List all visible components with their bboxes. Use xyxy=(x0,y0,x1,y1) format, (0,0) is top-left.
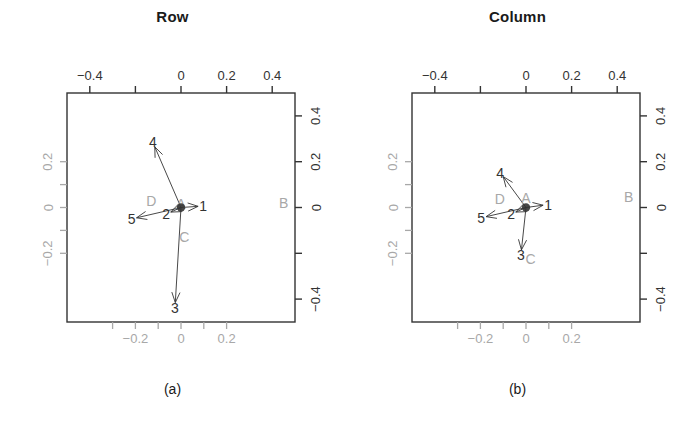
axis-label-top: 0.4 xyxy=(263,68,281,83)
axis-label-right: 0 xyxy=(309,204,324,211)
column-point-label: C xyxy=(179,229,189,245)
axis-label-top: 0 xyxy=(522,68,529,83)
axis-label-top: −0.4 xyxy=(422,68,448,83)
column-point-label: B xyxy=(624,189,633,205)
row-point-label: 2 xyxy=(507,206,515,222)
axis-label-bottom: 0.2 xyxy=(218,331,236,346)
axis-label-bottom: −0.2 xyxy=(468,331,494,346)
biplot-figure: Row −0.400.20.4−0.200.20.40.20−0.40.20−0… xyxy=(0,0,690,422)
panel-row: Row −0.400.20.4−0.200.20.40.20−0.40.20−0… xyxy=(0,0,345,422)
row-point-label: 5 xyxy=(477,210,485,226)
arrow-head-barb xyxy=(486,217,497,219)
plot-canvas-column: −0.400.20.4−0.200.20.40.20−0.40.20−0.212… xyxy=(345,0,690,422)
row-point-arrow xyxy=(137,208,181,220)
column-point-label: D xyxy=(146,193,156,209)
row-point-label: 1 xyxy=(544,197,552,213)
row-point-label: 1 xyxy=(199,198,207,214)
axis-label-left: 0.2 xyxy=(386,153,401,171)
axis-label-left: −0.2 xyxy=(386,240,401,266)
arrow-head-barb xyxy=(532,203,543,206)
axis-label-bottom: 0.2 xyxy=(563,331,581,346)
axis-label-right: 0 xyxy=(654,204,669,211)
arrow-head-barb xyxy=(137,218,148,220)
row-point-arrow xyxy=(172,208,181,303)
arrow-head-barb xyxy=(188,203,198,206)
axis-label-top: 0.2 xyxy=(563,68,581,83)
row-point-arrow xyxy=(486,208,526,219)
origin-cluster-marker xyxy=(177,203,185,211)
axis-label-top: −0.4 xyxy=(77,68,103,83)
axis-label-left: 0 xyxy=(386,204,401,211)
axis-label-right: −0.4 xyxy=(309,286,324,312)
column-point-label: C xyxy=(525,251,535,267)
panel-column: Column −0.400.20.4−0.200.20.40.20−0.40.2… xyxy=(345,0,690,422)
axis-label-top: 0.4 xyxy=(608,68,626,83)
axis-label-left: 0 xyxy=(41,204,56,211)
axis-label-right: 0.4 xyxy=(309,107,324,125)
arrow-shaft xyxy=(175,208,181,303)
axis-label-right: 0.4 xyxy=(654,107,669,125)
row-point-label: 4 xyxy=(496,165,504,181)
axis-label-left: −0.2 xyxy=(41,240,56,266)
axis-label-right: 0.2 xyxy=(309,153,324,171)
row-point-label: 5 xyxy=(128,211,136,227)
row-point-label: 3 xyxy=(171,300,179,316)
axis-label-right: −0.4 xyxy=(654,286,669,312)
row-point-label: 4 xyxy=(149,134,157,150)
column-point-label: B xyxy=(279,195,288,211)
column-point-label: D xyxy=(495,191,505,207)
axis-label-bottom: −0.2 xyxy=(123,331,149,346)
row-point-label: 3 xyxy=(517,247,525,263)
origin-cluster-marker xyxy=(522,203,530,211)
panel-caption-row: (a) xyxy=(0,381,345,397)
row-point-label: 2 xyxy=(162,206,170,222)
plot-canvas-row: −0.400.20.4−0.200.20.40.20−0.40.20−0.212… xyxy=(0,0,345,422)
row-point-arrow xyxy=(518,208,526,250)
axis-label-top: 0.2 xyxy=(218,68,236,83)
panel-caption-column: (b) xyxy=(345,381,690,397)
axis-label-left: 0.2 xyxy=(41,153,56,171)
axis-label-top: 0 xyxy=(177,68,184,83)
axis-label-right: 0.2 xyxy=(654,153,669,171)
axis-label-bottom: 0 xyxy=(177,331,184,346)
axis-label-bottom: 0 xyxy=(522,331,529,346)
